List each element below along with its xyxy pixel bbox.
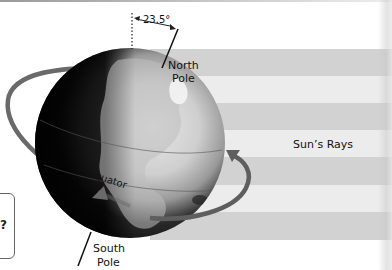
north-pole-label-line1: North [168, 60, 199, 72]
angle-arrowhead-left [134, 16, 140, 21]
south-pole-label-line1: South [93, 243, 125, 255]
earth-tilt-diagram [0, 0, 392, 270]
question-mark: ? [0, 218, 7, 232]
tilt-angle-label: 23.5° [143, 14, 170, 26]
north-pole-label-line2: Pole [172, 73, 195, 85]
south-pole-label-line2: Pole [97, 257, 120, 269]
south-axis-line [78, 232, 91, 266]
globe [35, 48, 235, 238]
angle-arrowhead-right [170, 24, 176, 30]
page-fold-shadow [378, 0, 392, 270]
sun-rays-label: Sun’s Rays [293, 139, 353, 151]
